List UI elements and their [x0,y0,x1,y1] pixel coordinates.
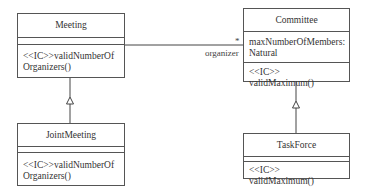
association-role: organizer [205,48,239,58]
class-name: Meeting [18,14,124,38]
class-name: TaskForce [244,134,349,157]
generalization-jointmeeting-meeting [67,77,74,123]
operation-line: <<IC>> validMaximum() [249,165,344,187]
inheritance-triangle-icon [293,101,300,108]
operations-compartment: <<IC>>validNumberOf Organizers() [18,153,124,182]
class-meeting: Meeting <<IC>>validNumberOf Organizers() [17,13,125,78]
class-committee: Committee maxNumberOfMembers: Natural <<… [243,8,350,82]
inheritance-triangle-icon [67,97,74,104]
operation-line: <<IC>>validNumberOf [23,51,119,62]
attribute-line: maxNumberOfMembers: [249,37,344,48]
class-jointmeeting: JointMeeting <<IC>>validNumberOf Organiz… [17,123,125,186]
class-taskforce: TaskForce <<IC>> validMaximum() [243,133,350,179]
attributes-compartment [18,38,124,45]
operation-line: <<IC>>validNumberOf [23,160,119,171]
operations-compartment: <<IC>>validNumberOf Organizers() [18,45,124,73]
operation-line: Organizers() [23,171,119,182]
association-multiplicity: * [235,36,240,46]
operation-line: Organizers() [23,62,119,73]
operations-compartment: <<IC>> validMaximum() [244,63,349,89]
class-name: JointMeeting [18,124,124,147]
operation-line: <<IC>> validMaximum() [249,67,344,89]
class-name: Committee [244,9,349,32]
attributes-compartment: maxNumberOfMembers: Natural [244,32,349,63]
operations-compartment: <<IC>> validMaximum() [244,162,349,187]
attribute-line: Natural [249,48,344,59]
